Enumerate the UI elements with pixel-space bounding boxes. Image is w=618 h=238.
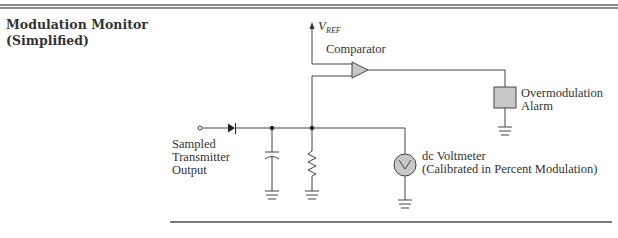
vref-subscript: REF [325,26,341,35]
circuit-diagram: V REF Comparator Overmodulation Alarm Sa… [0,0,618,238]
ground-icon [305,191,319,199]
alarm-label-1: Overmodulation [521,86,604,100]
vref-arrow-icon [310,22,315,29]
input-label-2: Transmitter [172,150,231,164]
voltmeter-label-2: (Calibrated in Percent Modulation) [422,162,597,176]
junction-node [270,126,274,130]
bottom-rule [170,221,612,223]
ground-icon [265,191,279,199]
voltmeter-icon [394,154,416,176]
comparator-label: Comparator [326,42,387,56]
input-label-1: Sampled [172,137,216,151]
diode-icon [228,123,236,134]
comparator-icon [352,62,368,78]
resistor-icon [308,151,316,179]
input-label-3: Output [172,163,207,177]
input-terminal-icon [198,126,202,130]
voltmeter-label-1: dc Voltmeter [422,149,487,163]
ground-icon [498,127,512,135]
junction-node [310,126,314,130]
ground-icon [398,200,412,208]
alarm-label-2: Alarm [521,99,553,113]
alarm-icon [494,87,516,108]
